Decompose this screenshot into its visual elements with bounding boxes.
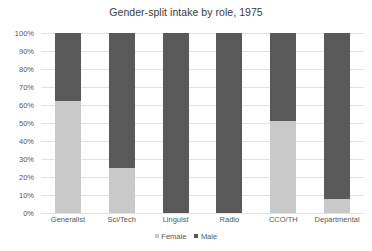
y-axis: 100%90%80%70%60%50%40%30%20%10%0% [0, 33, 38, 213]
x-axis-tick-label: CCO/TH [269, 215, 298, 224]
chart-legend: FemaleMale [0, 231, 372, 241]
x-axis-tick-label: Radio [220, 215, 240, 224]
gridline [41, 33, 364, 34]
bar-column[interactable] [55, 33, 81, 213]
bar-segment-female[interactable] [55, 101, 81, 213]
bar-segment-male[interactable] [270, 33, 296, 121]
bar-column[interactable] [163, 33, 189, 213]
x-axis: GeneralistSci/TechLinguistRadioCCO/THDep… [41, 215, 364, 229]
y-axis-tick-label: 100% [15, 29, 34, 38]
bar-column[interactable] [270, 33, 296, 213]
bar-segment-male[interactable] [109, 33, 135, 168]
legend-swatch-icon [194, 234, 198, 238]
plot-area [41, 33, 364, 213]
legend-item-female[interactable]: Female [155, 231, 187, 241]
bar-segment-male[interactable] [216, 33, 242, 213]
bar-segment-male[interactable] [324, 33, 350, 199]
legend-item-male[interactable]: Male [194, 231, 217, 241]
bar-column[interactable] [216, 33, 242, 213]
gridline [41, 69, 364, 70]
gridline [41, 51, 364, 52]
gridline [41, 213, 364, 214]
gridline [41, 105, 364, 106]
y-axis-tick-label: 0% [23, 209, 34, 218]
y-axis-tick-label: 80% [19, 65, 34, 74]
bar-column[interactable] [324, 33, 350, 213]
y-axis-tick-label: 20% [19, 173, 34, 182]
bar-column[interactable] [109, 33, 135, 213]
gridline [41, 141, 364, 142]
legend-swatch-icon [155, 234, 159, 238]
chart-container: Gender-split intake by role, 1975 100%90… [0, 0, 372, 251]
bar-segment-male[interactable] [163, 33, 189, 213]
y-axis-tick-label: 60% [19, 101, 34, 110]
x-axis-tick-label: Generalist [51, 215, 85, 224]
y-axis-tick-label: 90% [19, 47, 34, 56]
gridline [41, 123, 364, 124]
bar-segment-female[interactable] [109, 168, 135, 213]
x-axis-tick-label: Departmental [315, 215, 360, 224]
y-axis-tick-label: 10% [19, 191, 34, 200]
gridline [41, 87, 364, 88]
gridline [41, 159, 364, 160]
legend-label: Female [161, 232, 186, 241]
legend-label: Male [201, 232, 217, 241]
bar-segment-male[interactable] [55, 33, 81, 101]
gridline [41, 177, 364, 178]
chart-title: Gender-split intake by role, 1975 [0, 6, 372, 18]
bar-segment-female[interactable] [270, 121, 296, 213]
y-axis-tick-label: 40% [19, 137, 34, 146]
bar-segment-female[interactable] [324, 199, 350, 213]
y-axis-tick-label: 50% [19, 119, 34, 128]
x-axis-tick-label: Linguist [163, 215, 189, 224]
x-axis-tick-label: Sci/Tech [108, 215, 136, 224]
y-axis-tick-label: 30% [19, 155, 34, 164]
y-axis-tick-label: 70% [19, 83, 34, 92]
gridline [41, 195, 364, 196]
